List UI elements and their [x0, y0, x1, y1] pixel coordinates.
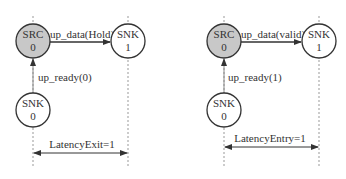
snk-bottom-state: 0 [30, 110, 36, 122]
ready-message: up_ready(0) [38, 71, 92, 84]
snk-bottom-name: SNK [22, 97, 44, 109]
snk-bottom-state: 0 [221, 110, 227, 122]
data-message: up_data(Hold) [50, 28, 114, 41]
latency-label: LatencyExit=1 [49, 138, 114, 150]
snk-top-name: SNK [308, 28, 330, 40]
diagram-canvas: up_ready(0) up_data(Hold) SRC 0 SNK 1 SN… [0, 0, 346, 179]
snk-top-state: 1 [125, 41, 131, 53]
diagram-latency-exit: up_ready(0) up_data(Hold) SRC 0 SNK 1 SN… [16, 16, 145, 168]
src-node-state: 0 [30, 41, 36, 53]
src-node-state: 0 [221, 41, 227, 53]
diagram-latency-entry: up_ready(1) up_data(valid) SRC 0 SNK 1 S… [207, 16, 336, 168]
src-node-name: SRC [23, 28, 44, 40]
snk-bottom-name: SNK [213, 97, 235, 109]
latency-label: LatencyEntry=1 [234, 132, 306, 144]
src-node-name: SRC [214, 28, 235, 40]
data-message: up_data(valid) [241, 28, 305, 41]
snk-top-name: SNK [117, 28, 139, 40]
ready-message: up_ready(1) [228, 71, 282, 84]
snk-top-state: 1 [316, 41, 322, 53]
